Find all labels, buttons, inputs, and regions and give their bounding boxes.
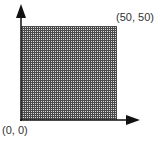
origin-label: (0, 0) (2, 124, 28, 136)
shaded-square-region (21, 26, 117, 120)
corner-label-top-right: (50, 50) (116, 11, 154, 23)
x-axis-arrow-icon (126, 115, 140, 125)
y-axis-arrow-icon (16, 4, 26, 18)
